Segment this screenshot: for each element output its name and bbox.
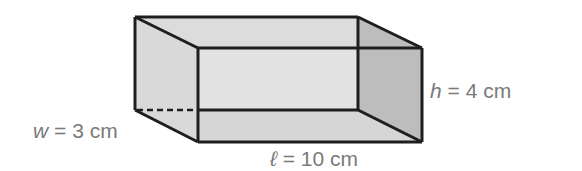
width-variable: w <box>33 119 48 142</box>
height-equals: = <box>448 79 460 102</box>
length-value: 10 <box>301 147 324 170</box>
height-variable: h <box>430 79 442 102</box>
width-value: 3 <box>72 119 84 142</box>
height-unit: cm <box>483 79 511 102</box>
front-face <box>198 48 358 110</box>
height-label: h = 4 cm <box>430 80 511 101</box>
width-label: w = 3 cm <box>33 120 118 141</box>
length-label: ℓ = 10 cm <box>270 148 358 169</box>
length-equals: = <box>283 147 295 170</box>
length-variable: ℓ <box>270 147 277 170</box>
width-equals: = <box>54 119 66 142</box>
height-value: 4 <box>466 79 478 102</box>
width-unit: cm <box>90 119 118 142</box>
length-unit: cm <box>330 147 358 170</box>
